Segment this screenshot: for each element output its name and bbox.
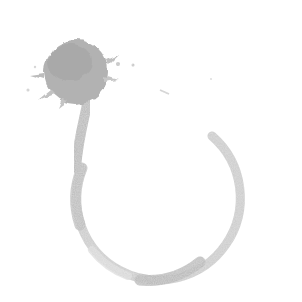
ink-splatter-ring-image <box>0 0 302 302</box>
background <box>0 0 302 302</box>
